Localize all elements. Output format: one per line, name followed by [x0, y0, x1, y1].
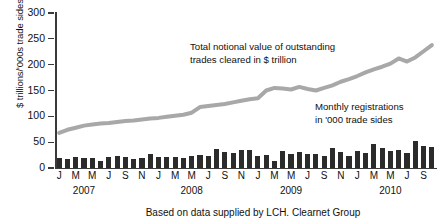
- x-axis-tick-labels: JMMJSNJMMJSNJMMJSNJMMJS: [55, 170, 436, 184]
- year-label: 2007: [73, 185, 95, 196]
- y-tick-label: 200: [0, 58, 45, 70]
- x-tick-label: J: [355, 170, 360, 181]
- y-tick-label: 300: [0, 6, 45, 18]
- y-tick-label: 0: [0, 161, 45, 173]
- year-label: 2009: [280, 185, 302, 196]
- y-tick: [48, 90, 54, 91]
- notional-value-line: [55, 13, 436, 168]
- line-series: [55, 13, 436, 168]
- y-tick-label: 150: [0, 84, 45, 96]
- x-tick-label: M: [270, 170, 278, 181]
- y-tick: [48, 167, 54, 168]
- bar-annotation: Monthly registrations in '000 trade side…: [315, 101, 404, 126]
- y-tick: [48, 142, 54, 143]
- year-label: 2010: [379, 185, 401, 196]
- x-tick-label: J: [206, 170, 211, 181]
- x-tick-label: S: [321, 170, 328, 181]
- x-tick-label: J: [405, 170, 410, 181]
- year-label: 2008: [181, 185, 203, 196]
- x-tick-label: M: [88, 170, 96, 181]
- x-tick-label: N: [138, 170, 145, 181]
- x-tick-label: J: [156, 170, 161, 181]
- bar-annotation-line2: in '000 trade sides: [315, 114, 404, 127]
- line-annotation: Total notional value of outstanding trad…: [190, 41, 335, 66]
- x-tick-label: N: [337, 170, 344, 181]
- x-tick-label: S: [122, 170, 129, 181]
- y-tick-label: 50: [0, 135, 45, 147]
- x-tick-label: M: [370, 170, 378, 181]
- y-tick-label: 250: [0, 32, 45, 44]
- x-tick-label: M: [287, 170, 295, 181]
- source-note-row: Based on data supplied by LCH. Clearnet …: [0, 207, 446, 218]
- y-tick: [48, 64, 54, 65]
- y-tick-label: 100: [0, 109, 45, 121]
- line-annotation-line2: trades cleared in $ trillion: [190, 54, 335, 67]
- plot-area: [55, 13, 436, 168]
- x-tick-label: J: [57, 170, 62, 181]
- x-tick-label: S: [420, 170, 427, 181]
- x-tick-label: M: [187, 170, 195, 181]
- y-tick: [48, 12, 54, 13]
- x-tick-label: J: [305, 170, 310, 181]
- line-annotation-line1: Total notional value of outstanding: [190, 41, 335, 54]
- bar-annotation-line1: Monthly registrations: [315, 101, 404, 114]
- y-tick: [48, 38, 54, 39]
- source-note: Based on data supplied by LCH. Clearnet …: [86, 207, 361, 218]
- x-tick-label: J: [255, 170, 260, 181]
- y-tick: [48, 116, 54, 117]
- x-tick-label: M: [171, 170, 179, 181]
- x-tick-label: M: [72, 170, 80, 181]
- x-tick-label: N: [238, 170, 245, 181]
- x-tick-label: M: [386, 170, 394, 181]
- x-tick-label: S: [221, 170, 228, 181]
- chart-container: $ trillions/'000s trade sides 0501001502…: [0, 0, 446, 220]
- x-tick-label: J: [106, 170, 111, 181]
- x-axis-year-labels: 2007200820092010: [55, 185, 436, 199]
